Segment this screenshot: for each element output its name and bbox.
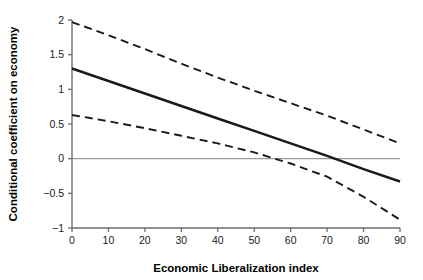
x-tick-label: 20 bbox=[139, 234, 151, 246]
x-tick-label: 50 bbox=[248, 234, 260, 246]
x-tick-label: 10 bbox=[103, 234, 115, 246]
x-tick-label: 80 bbox=[358, 234, 370, 246]
y-tick-label: 0 bbox=[58, 152, 64, 164]
x-tick-label: 70 bbox=[321, 234, 333, 246]
y-axis-title: Conditional coefficient on economy bbox=[7, 26, 19, 221]
x-tick-label: 0 bbox=[69, 234, 75, 246]
y-tick-label: 1.5 bbox=[49, 48, 64, 60]
conditional-effect-plot: −1−0.500.511.52 0102030405060708090 Econ… bbox=[0, 0, 423, 280]
y-tick-label: 0.5 bbox=[49, 118, 64, 130]
y-tick-label: −1 bbox=[52, 222, 64, 234]
x-tick-label: 40 bbox=[212, 234, 224, 246]
chart-figure: −1−0.500.511.52 0102030405060708090 Econ… bbox=[0, 0, 423, 280]
x-axis-title: Economic Liberalization index bbox=[153, 262, 319, 274]
y-tick-label: 2 bbox=[58, 14, 64, 26]
x-tick-label: 30 bbox=[175, 234, 187, 246]
x-tick-label: 60 bbox=[285, 234, 297, 246]
y-tick-label: 1 bbox=[58, 83, 64, 95]
y-tick-label: −0.5 bbox=[43, 187, 64, 199]
x-tick-label: 90 bbox=[394, 234, 406, 246]
